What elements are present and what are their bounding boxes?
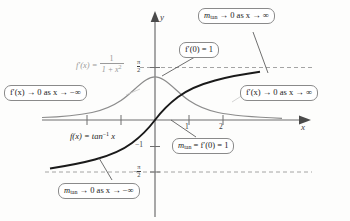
callout-text: f′(x) → 0 as x → ∞ <box>246 87 312 97</box>
denominator-exponent: 2 <box>119 64 122 70</box>
y-axis-label: y <box>160 12 164 22</box>
leader-mtan-pos-inf <box>253 32 268 73</box>
function-formula-exponent: −1 <box>103 131 109 137</box>
callout-fprime-zero-equals-one[interactable]: f′(0) = 1 <box>179 42 219 58</box>
plot-svg <box>0 0 350 221</box>
callout-text-rest: → 0 as x → ∞ <box>217 10 268 20</box>
x-tick-label-1: 1 <box>185 122 189 131</box>
function-formula-var: x <box>111 131 115 141</box>
derivative-denominator: 1 + x2 <box>100 63 124 74</box>
derivative-numerator: 1 <box>100 55 124 63</box>
derivative-formula-label: f′(x) = 1 1 + x2 <box>76 55 124 74</box>
function-formula-fx: f(x) = tan <box>70 131 103 141</box>
figure-container: y x 1 2 π 2 −1 − π 2 f′(x) = 1 1 + x2 f(… <box>0 0 350 221</box>
pi-denominator-neg: 2 <box>137 171 140 179</box>
pi-numerator-neg: π <box>137 164 140 171</box>
callout-mtan-equals-fprime-zero[interactable]: mtan = f′(0) = 1 <box>172 138 234 154</box>
callout-mtan-zero-neg-inf[interactable]: mtan → 0 as x → −∞ <box>58 183 140 199</box>
y-tick-label-minus-1: −1 <box>135 140 143 149</box>
callout-text: f′(0) = 1 <box>185 44 213 54</box>
function-formula-label: f(x) = tan−1 x <box>70 131 115 141</box>
x-axis-label: x <box>301 122 305 132</box>
y-tick-label-minus-pi-over-2: − π 2 <box>133 164 141 178</box>
x-tick-label-2: 2 <box>219 122 223 131</box>
callout-fprime-to-zero-pos-inf[interactable]: f′(x) → 0 as x → ∞ <box>240 85 318 101</box>
y-tick-label-pi-over-2: π 2 <box>137 59 140 73</box>
callout-fprime-to-zero-neg-inf[interactable]: f′(x) → 0 as x → −∞ <box>4 85 87 101</box>
y-axis-arrowhead <box>151 11 160 22</box>
callout-text-rest: = f′(0) = 1 <box>191 140 228 150</box>
leader-mtan-neg-inf <box>99 158 112 180</box>
leader-mtan-equals <box>171 120 196 137</box>
callout-text: f′(x) → 0 as x → −∞ <box>10 87 81 97</box>
callout-text-rest: → 0 as x → −∞ <box>77 185 133 195</box>
derivative-formula-lhs: f′(x) = <box>76 60 98 70</box>
callout-mtan-zero-pos-inf[interactable]: mtan → 0 as x → ∞ <box>198 8 275 24</box>
pi-denominator: 2 <box>137 66 140 74</box>
pi-numerator: π <box>137 59 140 66</box>
